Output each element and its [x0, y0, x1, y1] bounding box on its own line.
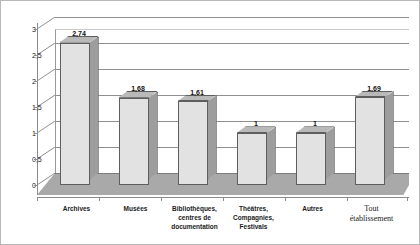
- bar-side-face: [267, 127, 276, 179]
- bar-value-label: 2,74: [60, 30, 99, 37]
- axis-leader-line: [37, 69, 56, 82]
- bar-side-face: [90, 37, 99, 179]
- gridline: [55, 17, 409, 18]
- plot-area: 00,511,522,53 2,741,681,61111,69: [37, 17, 409, 197]
- axis-leader-line: [37, 121, 56, 134]
- y-axis-tick-label: 0: [32, 182, 33, 189]
- y-axis-tick-label: 2,5: [32, 52, 33, 59]
- gridline: [55, 69, 409, 70]
- bar-value-label: 1: [296, 120, 335, 127]
- category-label-line: Compagnies,: [215, 213, 293, 222]
- axis-leader-line: [37, 173, 56, 186]
- bar-value-label: 1,61: [178, 89, 217, 96]
- category-label-line: Tout: [333, 204, 411, 214]
- bar-front-face: [60, 43, 90, 185]
- x-axis-category-label: Toutétablissement: [333, 204, 411, 224]
- category-label-line: établissement: [333, 214, 411, 224]
- bar-side-face: [326, 127, 335, 179]
- bar-front-face: [237, 133, 267, 185]
- chart-container: 00,511,522,53 2,741,681,61111,69 Archive…: [0, 0, 420, 245]
- bar-side-face: [385, 91, 394, 179]
- y-axis-tick-label: 2: [32, 78, 33, 85]
- y-axis-tick-mark: [34, 159, 38, 160]
- axis-leader-line: [37, 17, 56, 30]
- bar-front-face: [119, 98, 149, 185]
- x-axis-tick-mark: [407, 197, 408, 201]
- y-axis-tick-label: 1,5: [32, 104, 33, 111]
- y-axis-tick-label: 0,5: [32, 156, 33, 163]
- y-axis-tick-label: 1: [32, 130, 33, 137]
- x-axis-tick-mark: [161, 197, 162, 201]
- bar-side-face: [208, 95, 217, 179]
- bar-front-face: [355, 97, 385, 185]
- y-axis-tick-mark: [34, 81, 38, 82]
- y-axis-tick-mark: [34, 55, 38, 56]
- bar[interactable]: 2,74: [60, 31, 99, 185]
- bar[interactable]: 1,68: [119, 86, 158, 185]
- bar[interactable]: 1: [296, 121, 335, 185]
- x-axis-tick-mark: [223, 197, 224, 201]
- y-axis-tick-mark: [34, 29, 38, 30]
- bar-value-label: 1: [237, 120, 276, 127]
- x-axis-tick-mark: [99, 197, 100, 201]
- bar-front-face: [178, 101, 208, 185]
- bar[interactable]: 1,69: [355, 85, 394, 185]
- x-axis-tick-mark: [37, 197, 38, 201]
- bar[interactable]: 1,61: [178, 89, 217, 185]
- y-axis-tick-mark: [34, 107, 38, 108]
- y-axis-tick-mark: [34, 133, 38, 134]
- bar[interactable]: 1: [237, 121, 276, 185]
- bar-value-label: 1,69: [355, 85, 394, 92]
- bar-side-face: [149, 92, 158, 179]
- x-axis-tick-mark: [285, 197, 286, 201]
- category-label-line: Festivals: [215, 222, 293, 231]
- bar-value-label: 1,68: [119, 85, 158, 92]
- x-axis-tick-mark: [347, 197, 348, 201]
- bar-front-face: [296, 133, 326, 185]
- y-axis-tick-mark: [34, 185, 38, 186]
- y-axis-tick-label: 3: [32, 26, 33, 33]
- gridline: [55, 43, 409, 44]
